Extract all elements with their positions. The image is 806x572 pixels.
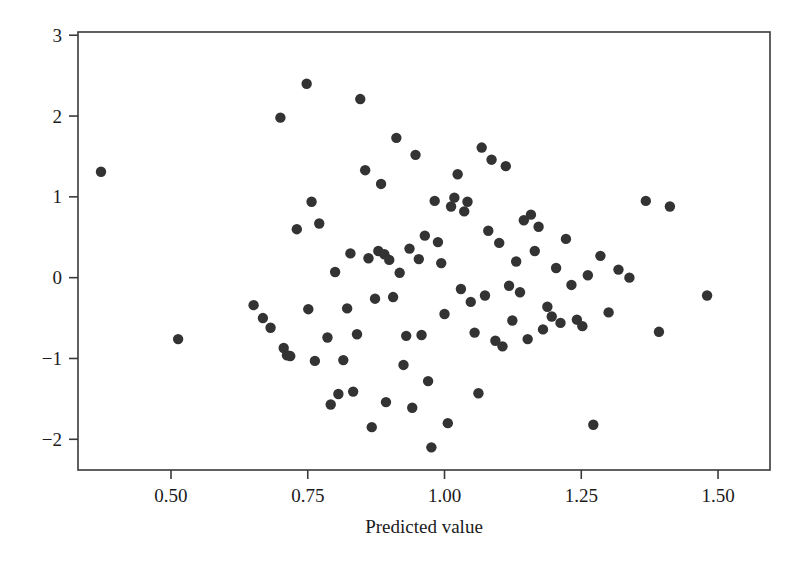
scatter-point (507, 315, 517, 325)
scatter-point (522, 334, 532, 344)
scatter-point (566, 280, 576, 290)
scatter-point (330, 267, 340, 277)
x-tick-label: 0.50 (154, 485, 187, 506)
scatter-point (258, 313, 268, 323)
y-tick-label: 3 (53, 25, 63, 46)
scatter-point (367, 422, 377, 432)
y-tick-label: 1 (53, 186, 63, 207)
scatter-point (310, 356, 320, 366)
y-tick-label: 0 (53, 267, 63, 288)
scatter-point (511, 256, 521, 266)
scatter-point (624, 272, 634, 282)
scatter-point (398, 360, 408, 370)
scatter-point (381, 397, 391, 407)
scatter-point (404, 243, 414, 253)
scatter-point (322, 332, 332, 342)
scatter-point (443, 418, 453, 428)
scatter-point (469, 327, 479, 337)
scatter-point (547, 311, 557, 321)
scatter-point (355, 94, 365, 104)
scatter-point (342, 303, 352, 313)
scatter-point (401, 331, 411, 341)
scatter-point (462, 197, 472, 207)
scatter-point (363, 253, 373, 263)
scatter-point (497, 341, 507, 351)
scatter-point (388, 292, 398, 302)
scatter-point (603, 307, 613, 317)
scatter-point (275, 112, 285, 122)
scatter-point (542, 302, 552, 312)
x-tick-label: 1.25 (565, 485, 598, 506)
x-tick-label: 1.50 (701, 485, 734, 506)
scatter-point (433, 237, 443, 247)
scatter-point (439, 309, 449, 319)
scatter-point (248, 300, 258, 310)
x-axis-title: Predicted value (365, 516, 483, 537)
scatter-point (370, 293, 380, 303)
scatter-point (595, 251, 605, 261)
scatter-plot-figure: −2−10123 0.500.751.001.251.50 Predicted … (0, 0, 806, 572)
scatter-point (452, 169, 462, 179)
scatter-point (301, 79, 311, 89)
plot-canvas: −2−10123 0.500.751.001.251.50 Predicted … (0, 0, 806, 572)
y-tick-label: −2 (42, 429, 62, 450)
scatter-point (391, 133, 401, 143)
scatter-point (654, 327, 664, 337)
scatter-point (173, 334, 183, 344)
scatter-point (407, 403, 417, 413)
scatter-point (588, 420, 598, 430)
scatter-point (555, 318, 565, 328)
scatter-point (483, 226, 493, 236)
scatter-point (538, 324, 548, 334)
scatter-point (486, 154, 496, 164)
scatter-point (533, 222, 543, 232)
scatter-point (429, 196, 439, 206)
scatter-point (352, 329, 362, 339)
scatter-point (348, 386, 358, 396)
scatter-point (420, 230, 430, 240)
scatter-point (306, 197, 316, 207)
x-tick-label: 1.00 (428, 485, 461, 506)
scatter-point (303, 304, 313, 314)
y-tick-label: 2 (53, 106, 63, 127)
scatter-point (473, 388, 483, 398)
scatter-point (504, 281, 514, 291)
scatter-point (477, 142, 487, 152)
scatter-point (265, 323, 275, 333)
scatter-point (526, 209, 536, 219)
scatter-point (515, 287, 525, 297)
scatter-point (665, 201, 675, 211)
y-tick-label: −1 (42, 348, 62, 369)
scatter-point (360, 165, 370, 175)
scatter-point (416, 330, 426, 340)
x-tick-label: 0.75 (291, 485, 324, 506)
scatter-point (613, 264, 623, 274)
scatter-point (414, 254, 424, 264)
scatter-point (96, 167, 106, 177)
scatter-point (583, 270, 593, 280)
scatter-point (384, 255, 394, 265)
scatter-point (459, 206, 469, 216)
scatter-point (551, 263, 561, 273)
scatter-point (426, 442, 436, 452)
scatter-point (436, 258, 446, 268)
scatter-point (423, 376, 433, 386)
scatter-point (494, 238, 504, 248)
scatter-point (338, 355, 348, 365)
scatter-point (376, 179, 386, 189)
scatter-point (702, 290, 712, 300)
scatter-point (292, 224, 302, 234)
scatter-point (314, 218, 324, 228)
scatter-point (449, 192, 459, 202)
scatter-point (285, 351, 295, 361)
scatter-point (345, 248, 355, 258)
scatter-point (410, 150, 420, 160)
scatter-point (501, 161, 511, 171)
scatter-point (326, 399, 336, 409)
scatter-point (480, 290, 490, 300)
scatter-point (456, 284, 466, 294)
scatter-point (333, 389, 343, 399)
scatter-point (577, 321, 587, 331)
scatter-point (466, 297, 476, 307)
scatter-point (394, 268, 404, 278)
